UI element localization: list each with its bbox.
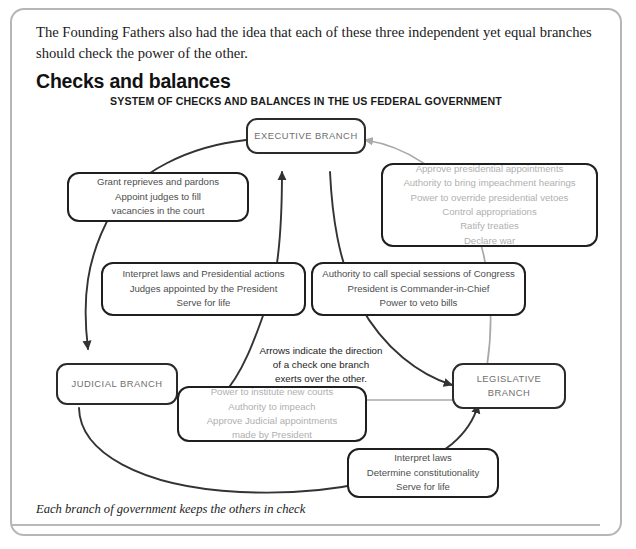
detail-legislative-over-executive[interactable]: Approve presidential appointmentsAuthori… bbox=[381, 163, 598, 247]
detail-executive-over-legislative[interactable]: Authority to call special sessions of Co… bbox=[311, 262, 526, 316]
detail-text: Approve presidential appointmentsAuthori… bbox=[403, 162, 575, 248]
page-root: The Founding Fathers also had the idea t… bbox=[0, 0, 636, 549]
detail-legislative-over-judicial[interactable]: Power to institute new courtsAuthority t… bbox=[177, 386, 367, 442]
node-judicial-label: JUDICIAL BRANCH bbox=[71, 377, 162, 391]
node-judicial-branch[interactable]: JUDICIAL BRANCH bbox=[56, 363, 178, 405]
annotation-text: Arrows indicate the directionof a check … bbox=[259, 345, 382, 384]
node-executive-branch[interactable]: EXECUTIVE BRANCH bbox=[246, 118, 366, 154]
figure-caption: Each branch of government keeps the othe… bbox=[36, 502, 576, 517]
detail-judicial-over-legislative[interactable]: Interpret lawsDetermine constitutionalit… bbox=[347, 448, 499, 498]
node-executive-label: EXECUTIVE BRANCH bbox=[254, 129, 357, 143]
detail-text: Power to institute new courtsAuthority t… bbox=[207, 385, 338, 443]
detail-text: Interpret lawsDetermine constitutionalit… bbox=[367, 451, 480, 494]
detail-executive-over-judicial[interactable]: Grant reprieves and pardonsAppoint judge… bbox=[67, 172, 249, 222]
node-legislative-branch[interactable]: LEGISLATIVE BRANCH bbox=[452, 363, 566, 409]
detail-text: Authority to call special sessions of Co… bbox=[322, 267, 515, 310]
annotation-arrow-legend: Arrows indicate the directionof a check … bbox=[226, 344, 416, 387]
detail-text: Interpret laws and Presidential actionsJ… bbox=[122, 267, 284, 310]
node-legislative-label: LEGISLATIVE BRANCH bbox=[477, 372, 542, 399]
detail-judicial-over-executive[interactable]: Interpret laws and Presidential actionsJ… bbox=[101, 262, 306, 316]
detail-text: Grant reprieves and pardonsAppoint judge… bbox=[97, 175, 219, 218]
footer-rule bbox=[12, 524, 600, 526]
